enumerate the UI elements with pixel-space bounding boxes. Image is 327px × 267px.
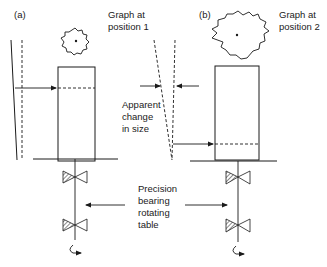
center-label-line3: in size [122,123,149,134]
column-a [58,67,95,161]
bearing-label-group: Precision bearing rotating table [86,183,227,230]
panel-a-tag: (a) [14,9,26,20]
center-comparison: Apparent change in size [122,40,199,160]
workpiece-center-dot-b [236,34,238,36]
panel-a-caption-line1: Graph at [108,9,145,20]
rotation-arrow-a-icon [70,245,81,253]
workpiece-center-dot [75,40,77,42]
bearing-label-line2: bearing [138,195,170,206]
center-label-line2: change [122,111,153,122]
vertical-edge-dashed [172,40,175,160]
panel-b-caption-line2: position 2 [279,21,320,32]
column-b [215,66,259,160]
bearing-label-line4: table [138,219,159,230]
panel-b: (b) Graph at position 2 [173,9,320,254]
panel-b-caption-line1: Graph at [279,9,316,20]
center-label-line1: Apparent [122,99,161,110]
workpiece-outline-large [212,11,269,59]
rotation-arrow-b-icon [233,246,244,254]
panel-b-tag: (b) [199,9,211,20]
panel-a-caption-line2: position 1 [108,21,149,32]
tilted-reference-line [11,40,17,160]
metrology-diagram: (a) Graph at position 1 Appar [0,0,327,267]
bearing-label-line3: rotating [138,207,170,218]
bearing-label-line1: Precision [138,183,177,194]
